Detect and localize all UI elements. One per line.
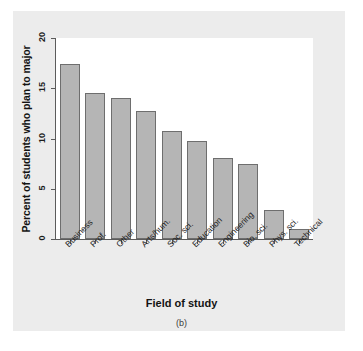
bar — [111, 98, 131, 239]
bar-series — [56, 38, 313, 239]
y-axis-tick-label: 20 — [37, 29, 47, 45]
y-axis-tick-label: 0 — [37, 230, 47, 246]
bar — [136, 111, 156, 239]
y-axis-tick-label: 15 — [37, 79, 47, 95]
chart-screenshot: Percent of students who plan to major 05… — [0, 0, 363, 351]
bar — [60, 64, 80, 239]
plot-area: 05101520 — [55, 38, 313, 240]
figure-caption: (b) — [0, 318, 363, 328]
y-axis-title-text: Percent of students who plan to major — [20, 45, 32, 232]
x-axis-category-labels: BusinessProf.OtherArts/hum.Soc. sci.Educ… — [55, 242, 313, 294]
x-axis-title: Field of study — [0, 297, 363, 309]
y-axis-tick-label: 5 — [37, 180, 47, 196]
y-axis-tick-label: 10 — [37, 130, 47, 146]
y-axis-tick — [51, 239, 56, 240]
y-axis-title: Percent of students who plan to major — [18, 38, 34, 240]
